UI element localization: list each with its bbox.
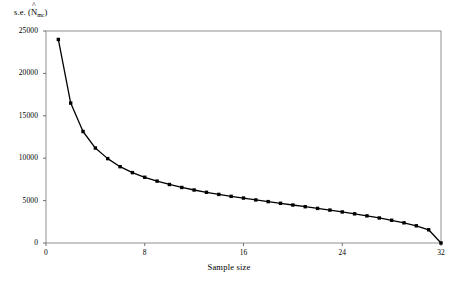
data-point-marker bbox=[291, 203, 294, 206]
y-tick-label: 20000 bbox=[0, 69, 38, 77]
data-point-marker bbox=[69, 101, 72, 104]
data-point-marker bbox=[168, 183, 171, 186]
data-point-marker bbox=[266, 200, 269, 203]
data-point-marker bbox=[316, 207, 319, 210]
y-axis-label: s.e. (^Nmc) bbox=[14, 7, 47, 21]
data-series-line bbox=[58, 39, 441, 243]
plot-frame bbox=[46, 31, 441, 243]
data-point-marker bbox=[94, 146, 97, 149]
data-point-marker bbox=[254, 198, 257, 201]
data-point-marker bbox=[155, 179, 158, 182]
data-point-marker bbox=[106, 157, 109, 160]
data-point-marker bbox=[192, 188, 195, 191]
data-point-marker bbox=[304, 205, 307, 208]
data-point-marker bbox=[143, 176, 146, 179]
x-tick-label: 32 bbox=[426, 249, 456, 257]
data-point-marker bbox=[217, 193, 220, 196]
y-axis-label-prefix: s.e. ( bbox=[14, 7, 31, 17]
data-point-marker bbox=[57, 38, 60, 41]
data-point-marker bbox=[180, 186, 183, 189]
data-point-marker bbox=[341, 210, 344, 213]
y-axis-label-suffix: ) bbox=[44, 7, 47, 17]
x-tick-label: 8 bbox=[130, 249, 160, 257]
data-point-marker bbox=[365, 214, 368, 217]
x-tick-label: 0 bbox=[31, 249, 61, 257]
data-point-marker bbox=[439, 241, 442, 244]
chart-figure: s.e. (^Nmc) 0500010000150002000025000 08… bbox=[0, 0, 458, 287]
data-point-marker bbox=[328, 208, 331, 211]
data-point-marker bbox=[242, 196, 245, 199]
data-point-marker bbox=[229, 195, 232, 198]
y-tick-label: 0 bbox=[0, 239, 38, 247]
x-tick-label: 16 bbox=[229, 249, 259, 257]
data-point-marker bbox=[378, 216, 381, 219]
data-point-marker bbox=[131, 171, 134, 174]
y-tick-label: 15000 bbox=[0, 112, 38, 120]
x-tick-label: 24 bbox=[327, 249, 357, 257]
x-axis-label: Sample size bbox=[0, 262, 458, 272]
y-tick-label: 25000 bbox=[0, 27, 38, 35]
data-point-marker bbox=[390, 219, 393, 222]
data-point-marker bbox=[205, 191, 208, 194]
hat-accent: ^ bbox=[31, 2, 37, 10]
y-axis-label-symbol: ^N bbox=[31, 7, 37, 18]
y-tick-label: 10000 bbox=[0, 154, 38, 162]
data-point-marker bbox=[427, 228, 430, 231]
data-point-marker bbox=[118, 165, 121, 168]
data-point-marker bbox=[81, 130, 84, 133]
data-point-marker bbox=[353, 212, 356, 215]
data-series-markers bbox=[57, 38, 443, 245]
data-point-marker bbox=[415, 224, 418, 227]
data-point-marker bbox=[279, 202, 282, 205]
data-point-marker bbox=[402, 221, 405, 224]
y-tick-label: 5000 bbox=[0, 197, 38, 205]
plot-area bbox=[0, 0, 458, 287]
axes-frame bbox=[46, 31, 441, 243]
